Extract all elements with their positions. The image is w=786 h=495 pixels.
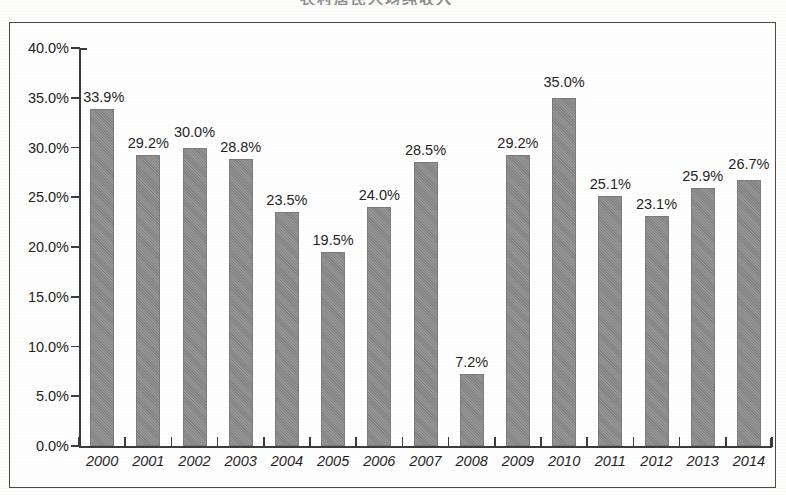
bar-value-label: 29.2% <box>128 135 169 151</box>
x-axis-tick <box>448 437 450 447</box>
bar <box>737 180 761 446</box>
x-axis-category-label: 2004 <box>271 453 303 469</box>
bar-value-label: 24.0% <box>359 187 400 203</box>
bar-value-label: 33.9% <box>83 89 124 105</box>
x-axis-tick <box>217 437 219 447</box>
bar-value-label: 7.2% <box>455 354 488 370</box>
x-axis-tick <box>633 437 635 447</box>
bar <box>321 252 345 446</box>
x-axis-category-label: 2014 <box>733 453 765 469</box>
bar-value-label: 35.0% <box>544 74 585 90</box>
x-axis-category-label: 2013 <box>687 453 719 469</box>
x-axis-tick <box>586 437 588 447</box>
bar-value-label: 25.1% <box>590 176 631 192</box>
x-axis-tick <box>171 437 173 447</box>
x-axis-category-label: 2000 <box>86 453 118 469</box>
y-axis-tick <box>71 196 80 198</box>
clipped-title-text: 农村居民人均纯收入 <box>300 0 453 5</box>
y-axis-label: 15.0% <box>11 289 69 305</box>
bar <box>275 212 299 446</box>
x-axis-category-label: 2012 <box>640 453 672 469</box>
bar <box>183 148 207 447</box>
bar-value-label: 30.0% <box>174 124 215 140</box>
x-axis-tick <box>540 437 542 447</box>
bar <box>90 109 114 446</box>
bar <box>367 207 391 446</box>
bar <box>460 374 484 446</box>
y-axis-label: 10.0% <box>11 339 69 355</box>
bar-value-label: 23.1% <box>636 196 677 212</box>
y-axis-label: 25.0% <box>11 189 69 205</box>
y-axis-label: 40.0% <box>11 40 69 56</box>
y-axis-tick <box>71 147 80 149</box>
bar <box>414 162 438 446</box>
bar-value-label: 28.8% <box>220 139 261 155</box>
x-axis-tick <box>355 437 357 447</box>
bar <box>552 98 576 446</box>
x-axis-tick <box>402 437 404 447</box>
bar-value-label: 25.9% <box>682 168 723 184</box>
x-axis-line <box>79 446 772 448</box>
y-axis-label: 0.0% <box>11 438 69 454</box>
bar <box>645 216 669 446</box>
x-axis-category-label: 2005 <box>317 453 349 469</box>
y-axis-label: 5.0% <box>11 388 69 404</box>
y-axis-label: 20.0% <box>11 239 69 255</box>
bar <box>136 155 160 446</box>
y-axis-tick <box>71 47 80 49</box>
chart-frame: 0.0%5.0%10.0%15.0%20.0%25.0%30.0%35.0%40… <box>9 22 776 488</box>
x-axis-category-label: 2010 <box>548 453 580 469</box>
y-axis-tick <box>71 97 80 99</box>
bar <box>229 159 253 446</box>
y-axis-label: 35.0% <box>11 90 69 106</box>
bar <box>506 155 530 446</box>
x-axis-category-label: 2006 <box>363 453 395 469</box>
y-axis-tick <box>71 395 80 397</box>
x-axis-tick <box>78 437 80 447</box>
bar-value-label: 26.7% <box>728 156 769 172</box>
bar-value-label: 28.5% <box>405 142 446 158</box>
x-axis-category-label: 2001 <box>132 453 164 469</box>
x-axis-tick <box>679 437 681 447</box>
bar <box>598 196 622 446</box>
bar <box>691 188 715 446</box>
y-axis-line <box>79 48 81 448</box>
x-axis-tick <box>263 437 265 447</box>
y-axis-tick <box>71 296 80 298</box>
bar-value-label: 29.2% <box>497 135 538 151</box>
bar-value-label: 23.5% <box>266 192 307 208</box>
x-axis-tick <box>124 437 126 447</box>
plot-area: 0.0%5.0%10.0%15.0%20.0%25.0%30.0%35.0%40… <box>10 23 777 489</box>
clipped-title: 农村居民人均纯收入 <box>300 0 505 5</box>
x-axis-category-label: 2008 <box>456 453 488 469</box>
x-axis-tick <box>494 437 496 447</box>
y-axis-tick <box>71 346 80 348</box>
x-axis-tick <box>309 437 311 447</box>
y-axis-tick <box>71 246 80 248</box>
x-axis-category-label: 2002 <box>178 453 210 469</box>
y-axis-label: 30.0% <box>11 140 69 156</box>
x-axis-category-label: 2011 <box>595 453 626 469</box>
x-axis-tick <box>725 437 727 447</box>
x-axis-category-label: 2003 <box>225 453 257 469</box>
y-axis-top-cap <box>79 48 87 50</box>
x-axis-category-label: 2009 <box>502 453 534 469</box>
scanned-page: 农村居民人均纯收入 0.0%5.0%10.0%15.0%20.0%25.0%30… <box>0 0 786 495</box>
x-axis-tick <box>771 437 773 447</box>
x-axis-category-label: 2007 <box>409 453 441 469</box>
bar-value-label: 19.5% <box>313 232 354 248</box>
